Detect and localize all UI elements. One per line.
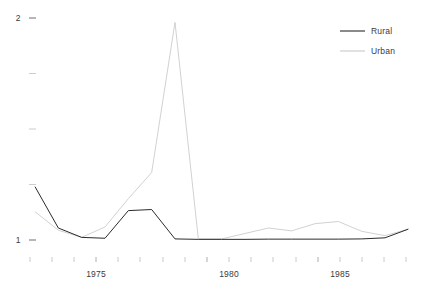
y-axis-label-top: 2 [16, 13, 21, 23]
chart-legend: Rural Urban [340, 26, 395, 56]
line-chart-plot: 2 1 1975 1980 1985 [0, 0, 430, 284]
series-line-rural [35, 187, 408, 240]
legend-label-rural: Rural [371, 26, 392, 36]
chart-container: 2 1 1975 1980 1985 [0, 0, 430, 284]
y-axis-ticks [29, 18, 36, 240]
x-axis-label-1975: 1975 [86, 269, 106, 279]
legend-label-urban: Urban [371, 46, 395, 56]
x-axis-label-1985: 1985 [330, 269, 350, 279]
y-axis-label-bottom: 1 [16, 235, 21, 245]
series-line-urban [35, 22, 408, 239]
x-axis-ticks [30, 257, 406, 262]
x-axis-label-1980: 1980 [219, 269, 239, 279]
